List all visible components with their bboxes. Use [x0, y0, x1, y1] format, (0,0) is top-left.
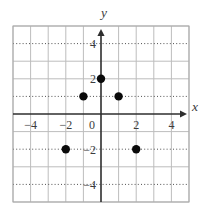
x-tick-label: 2 — [133, 118, 139, 132]
x-tick-label: −4 — [24, 118, 37, 132]
x-axis-label: x — [191, 99, 198, 114]
y-tick-label: 4 — [90, 37, 96, 51]
x-tick-label: 0 — [89, 118, 95, 132]
data-point — [79, 92, 87, 100]
data-point — [62, 145, 70, 153]
y-tick-label: −4 — [83, 178, 96, 192]
y-axis-label: y — [99, 5, 107, 20]
x-tick-label: 4 — [168, 118, 174, 132]
y-tick-label: −2 — [83, 143, 96, 157]
data-point — [132, 145, 140, 153]
coordinate-plane: −4−202442−2−4xy — [0, 0, 199, 217]
y-tick-label: 2 — [90, 72, 96, 86]
x-axis-arrowhead-icon — [180, 110, 187, 117]
x-tick-label: −2 — [59, 118, 72, 132]
data-point — [97, 75, 105, 83]
graph-figure: −4−202442−2−4xy — [0, 0, 199, 217]
y-axis-arrowhead-icon — [97, 29, 104, 36]
data-point — [114, 92, 122, 100]
